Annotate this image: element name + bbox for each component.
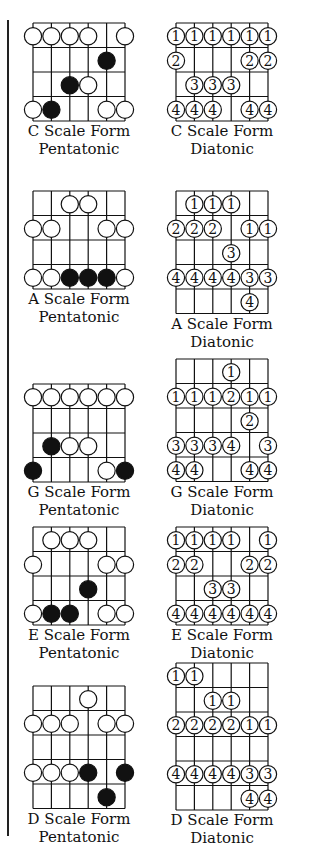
d-diatonic-diagram: 111122221144443344D Scale FormDiatonic	[163, 662, 293, 844]
root-note-dot	[80, 764, 97, 781]
diagram-subtitle: Pentatonic	[20, 501, 138, 519]
scale-note-dot	[43, 532, 60, 549]
finger-number: 3	[190, 77, 199, 93]
root-note-dot	[98, 52, 115, 69]
finger-number: 4	[208, 102, 217, 118]
fretboard-grid: 11111222233444444	[163, 526, 283, 626]
scale-note-dot	[61, 28, 78, 45]
finger-number: 4	[245, 102, 254, 118]
c-pentatonic-diagram: C Scale FormPentatonic	[20, 22, 150, 158]
finger-number: 2	[227, 717, 236, 733]
finger-number: 4	[208, 766, 217, 782]
finger-number: 2	[245, 53, 254, 69]
fretboard-grid: 111122221144443344	[163, 662, 283, 811]
finger-number: 1	[264, 221, 273, 237]
finger-number: 3	[190, 438, 199, 454]
c-diatonic-diagram: 11111122233344444C Scale FormDiatonic	[163, 22, 293, 158]
scale-note-dot	[43, 28, 60, 45]
finger-number: 2	[245, 413, 254, 429]
diagram-title: D Scale Form	[163, 811, 281, 829]
scale-note-dot	[98, 605, 115, 622]
finger-number: 3	[227, 581, 236, 597]
diagram-title: C Scale Form	[20, 122, 138, 140]
root-note-dot	[98, 789, 115, 806]
finger-number: 3	[227, 245, 236, 261]
finger-number: 1	[264, 532, 273, 548]
diagram-title: E Scale Form	[20, 626, 138, 644]
diagram-title: G Scale Form	[163, 483, 281, 501]
finger-number: 2	[190, 221, 199, 237]
finger-number: 1	[172, 28, 181, 44]
finger-number: 1	[245, 717, 254, 733]
finger-number: 1	[227, 532, 236, 548]
scale-note-dot	[98, 389, 115, 406]
finger-number: 3	[172, 438, 181, 454]
scale-note-dot	[98, 715, 115, 732]
finger-number: 4	[264, 102, 273, 118]
finger-number: 1	[264, 28, 273, 44]
scale-note-dot	[98, 101, 115, 118]
finger-number: 1	[245, 221, 254, 237]
finger-number: 4	[264, 791, 273, 807]
root-note-dot	[43, 101, 60, 118]
finger-number: 1	[227, 693, 236, 709]
scale-note-dot	[43, 715, 60, 732]
scale-note-dot	[116, 389, 133, 406]
scale-note-dot	[98, 556, 115, 573]
finger-number: 1	[264, 717, 273, 733]
scale-note-dot	[80, 28, 97, 45]
finger-number: 1	[172, 532, 181, 548]
a-pentatonic-diagram: A Scale FormPentatonic	[20, 190, 150, 326]
root-note-dot	[61, 77, 78, 94]
finger-number: 3	[245, 766, 254, 782]
diagram-subtitle: Diatonic	[163, 501, 281, 519]
scale-note-dot	[116, 269, 133, 286]
scale-note-dot	[116, 101, 133, 118]
scale-note-dot	[116, 220, 133, 237]
scale-note-dot	[24, 28, 41, 45]
diagram-subtitle: Diatonic	[163, 140, 281, 158]
finger-number: 4	[172, 606, 181, 622]
fretboard-grid	[20, 526, 140, 626]
finger-number: 2	[208, 221, 217, 237]
finger-number: 3	[208, 581, 217, 597]
g-diatonic-diagram: 11112112333434444G Scale FormDiatonic	[163, 358, 293, 519]
diagram-subtitle: Pentatonic	[20, 308, 138, 326]
finger-number: 1	[190, 532, 199, 548]
finger-number: 1	[208, 196, 217, 212]
scale-note-dot	[24, 269, 41, 286]
fretboard-grid: 11112112333434444	[163, 358, 283, 483]
scale-note-dot	[116, 556, 133, 573]
diagram-subtitle: Diatonic	[163, 829, 281, 844]
fretboard-grid	[20, 383, 140, 483]
diagram-title: A Scale Form	[20, 290, 138, 308]
finger-number: 4	[227, 766, 236, 782]
scale-note-dot	[80, 532, 97, 549]
finger-number: 1	[227, 364, 236, 380]
finger-number: 4	[190, 102, 199, 118]
scale-note-dot	[24, 715, 41, 732]
finger-number: 4	[172, 270, 181, 286]
diagram-title: C Scale Form	[163, 122, 281, 140]
root-note-dot	[116, 462, 133, 479]
finger-number: 2	[190, 557, 199, 573]
fretboard-grid	[20, 685, 140, 810]
finger-number: 1	[227, 196, 236, 212]
finger-number: 1	[172, 389, 181, 405]
finger-number: 2	[172, 53, 181, 69]
scale-note-dot	[80, 438, 97, 455]
finger-number: 4	[264, 462, 273, 478]
scale-note-dot	[43, 764, 60, 781]
g-pentatonic-diagram: G Scale FormPentatonic	[20, 383, 150, 519]
scale-note-dot	[61, 438, 78, 455]
finger-number: 2	[227, 389, 236, 405]
d-pentatonic-diagram: D Scale FormPentatonic	[20, 685, 150, 844]
finger-number: 1	[190, 28, 199, 44]
finger-number: 4	[172, 462, 181, 478]
root-note-dot	[116, 764, 133, 781]
scale-note-dot	[80, 389, 97, 406]
finger-number: 1	[172, 668, 181, 684]
root-note-dot	[61, 269, 78, 286]
finger-number: 1	[227, 28, 236, 44]
fretboard-grid: 1112221134444334	[163, 190, 283, 315]
